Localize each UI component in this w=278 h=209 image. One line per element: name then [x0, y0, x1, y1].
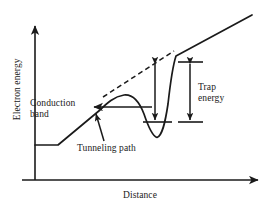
ideal-band-extrapolation-dashed-line	[103, 51, 174, 97]
tunneling-path-pointer-arrow	[96, 114, 104, 141]
y-axis-label: Electron energy	[12, 48, 23, 130]
trap-energy-annotation-line2: energy	[198, 93, 224, 103]
energy-band-diagram-figure: Electron energy Distance Conductionband …	[0, 0, 278, 209]
trap-energy-annotation: Trapenergy	[198, 82, 224, 103]
conduction-band-annotation-line2: band	[30, 109, 49, 119]
conduction-band-edge-curve	[35, 15, 252, 145]
x-axis-label: Distance	[95, 190, 185, 201]
tunneling-path-annotation: Tunneling path	[77, 143, 136, 154]
conduction-band-annotation-line1: Conduction	[30, 98, 75, 108]
conduction-band-annotation: Conductionband	[30, 98, 75, 119]
trap-energy-annotation-line1: Trap	[198, 82, 216, 92]
